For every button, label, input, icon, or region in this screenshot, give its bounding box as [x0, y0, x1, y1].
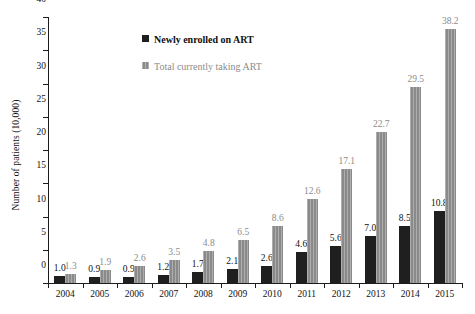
y-axis-tick-labels: 0510152025303540: [10, 0, 46, 266]
y-axis-tick-label: 15: [16, 161, 46, 171]
bar-newly-enrolled: [296, 252, 307, 283]
x-axis-tick: [324, 283, 325, 288]
y-axis-tick: [43, 150, 48, 151]
y-axis-tick: [43, 217, 48, 218]
bar-newly-enrolled: [330, 246, 341, 283]
legend-item-newly-enrolled: Newly enrolled on ART: [142, 29, 262, 43]
y-axis-tick-label: 10: [16, 195, 46, 205]
x-axis-category-label: 2011: [289, 290, 325, 300]
bar-value-label: 8.6: [261, 214, 295, 224]
legend: Newly enrolled on ART Total currently ta…: [142, 29, 262, 83]
x-axis-tick: [117, 283, 118, 288]
bar-total-taking: [445, 29, 456, 283]
bar-newly-enrolled: [434, 211, 445, 283]
bar-newly-enrolled: [399, 226, 410, 283]
x-axis-category-label: 2009: [220, 290, 256, 300]
bar-total-taking: [376, 132, 387, 283]
x-axis-tick: [393, 283, 394, 288]
y-axis-tick-label: 40: [16, 0, 46, 5]
bar-newly-enrolled: [261, 266, 272, 283]
legend-label-total-taking: Total currently taking ART: [154, 61, 262, 72]
y-axis-tick-label: 35: [16, 28, 46, 38]
legend-label-newly-enrolled: Newly enrolled on ART: [154, 34, 254, 45]
x-axis-category-label: 2015: [427, 290, 463, 300]
x-axis-category-label: 2004: [47, 290, 83, 300]
x-axis-tick: [186, 283, 187, 288]
bar-value-label: 2.6: [123, 254, 157, 264]
x-axis-category-label: 2007: [151, 290, 187, 300]
x-axis-category-label: 2005: [82, 290, 118, 300]
y-axis-tick: [43, 250, 48, 251]
bar-value-label: 22.7: [364, 120, 398, 130]
bar-total-taking: [307, 199, 318, 283]
legend-swatch-icon-total-taking: [142, 62, 149, 69]
y-axis-tick: [43, 17, 48, 18]
y-axis-tick: [43, 183, 48, 184]
x-axis-tick: [290, 283, 291, 288]
x-axis-category-label: 2006: [116, 290, 152, 300]
x-axis-tick: [152, 283, 153, 288]
y-axis-tick-label: 0: [16, 261, 46, 271]
bar-value-label: 12.6: [295, 187, 329, 197]
x-axis-tick: [428, 283, 429, 288]
y-axis-tick-label: 20: [16, 128, 46, 138]
y-axis-tick-label: 25: [16, 95, 46, 105]
bar-total-taking: [65, 274, 76, 283]
bar-value-label: 17.1: [330, 157, 364, 167]
y-axis-tick: [43, 84, 48, 85]
x-axis-tick: [83, 283, 84, 288]
bar-total-taking: [100, 270, 111, 283]
y-axis-tick: [43, 50, 48, 51]
bar-total-taking: [169, 260, 180, 283]
x-axis-category-label: 2013: [358, 290, 394, 300]
x-axis-category-label: 2014: [392, 290, 428, 300]
bar-chart: Number of patients (10,000) 051015202530…: [0, 0, 475, 314]
x-axis-category-label: 2010: [254, 290, 290, 300]
legend-swatch-icon-newly-enrolled: [142, 35, 149, 42]
bar-value-label: 3.5: [157, 248, 191, 258]
x-axis-tick: [48, 283, 49, 288]
x-axis-category-label: 2008: [185, 290, 221, 300]
bar-newly-enrolled: [54, 276, 65, 283]
bar-newly-enrolled: [227, 269, 238, 283]
y-axis-tick: [43, 117, 48, 118]
legend-item-total-taking: Total currently taking ART: [142, 56, 262, 70]
bar-newly-enrolled: [89, 277, 100, 283]
bar-value-label: 6.5: [226, 228, 260, 238]
bar-value-label: 4.8: [192, 239, 226, 249]
bar-newly-enrolled: [365, 236, 376, 283]
bar-total-taking: [341, 169, 352, 283]
bar-total-taking: [272, 226, 283, 283]
bar-value-label: 29.5: [399, 75, 433, 85]
x-axis-tick: [462, 283, 463, 288]
bar-newly-enrolled: [123, 277, 134, 283]
bar-newly-enrolled: [192, 272, 203, 283]
x-axis-category-label: 2012: [323, 290, 359, 300]
x-axis-tick: [359, 283, 360, 288]
bar-total-taking: [203, 251, 214, 283]
bar-value-label: 38.2: [433, 17, 467, 27]
y-axis-tick-label: 5: [16, 228, 46, 238]
bar-total-taking: [134, 266, 145, 283]
y-axis-tick-label: 30: [16, 62, 46, 72]
bar-newly-enrolled: [158, 275, 169, 283]
bar-total-taking: [410, 87, 421, 283]
x-axis-tick: [221, 283, 222, 288]
y-axis-line: [48, 17, 49, 284]
bar-total-taking: [238, 240, 249, 283]
x-axis-tick: [255, 283, 256, 288]
